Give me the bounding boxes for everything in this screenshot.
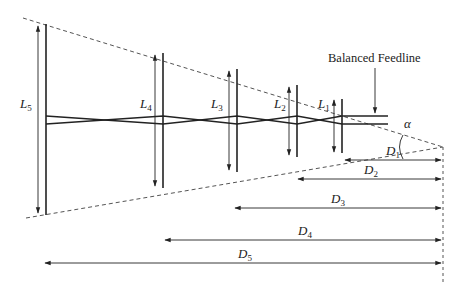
- label-L4: L4: [139, 96, 152, 113]
- angle-arc: [400, 135, 404, 159]
- label-D3: D3: [330, 191, 345, 208]
- distance-labels: D1 D2 D3 D4 D5: [237, 143, 400, 263]
- label-D2: D2: [363, 162, 378, 179]
- crossed-feedline: [46, 116, 388, 124]
- feedline-label: Balanced Feedline: [328, 51, 421, 65]
- label-L1: L1: [317, 96, 330, 113]
- label-L3: L3: [210, 96, 223, 113]
- angle-label: α: [404, 116, 412, 131]
- label-L5: L5: [19, 96, 32, 113]
- label-D5: D5: [237, 246, 252, 263]
- bottom-boundary-dashed-line: [26, 147, 443, 218]
- top-boundary-dashed-line: [23, 18, 443, 147]
- label-D4: D4: [297, 223, 312, 240]
- label-D1: D1: [385, 143, 400, 160]
- lpda-diagram: L5 L4 L3 L2 L1 Balanced Feedline α D1 D2…: [0, 0, 470, 287]
- length-arrows: [38, 26, 334, 213]
- label-L2: L2: [273, 96, 286, 113]
- length-labels: L5 L4 L3 L2 L1: [19, 96, 330, 113]
